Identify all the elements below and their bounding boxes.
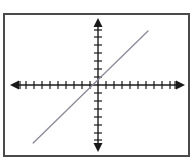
graph-figure [0, 0, 196, 165]
coordinate-plane-svg [0, 0, 196, 165]
